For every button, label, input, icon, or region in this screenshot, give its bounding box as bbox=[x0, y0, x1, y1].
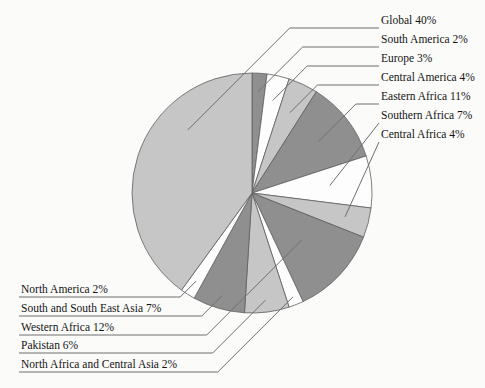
callout-label-europe: Europe 3% bbox=[381, 52, 432, 65]
callout-label-eastern-africa: Eastern Africa 11% bbox=[381, 90, 471, 103]
callout-label-pakistan: Pakistan 6% bbox=[21, 339, 78, 352]
callout-label-central-africa: Central Africa 4% bbox=[381, 128, 465, 141]
callout-label-north-america: North America 2% bbox=[21, 283, 108, 296]
pie-slices bbox=[132, 73, 372, 313]
callout-label-south-america: South America 2% bbox=[381, 33, 468, 46]
callout-label-western-africa: Western Africa 12% bbox=[21, 321, 114, 334]
callout-label-southern-africa: Southern Africa 7% bbox=[381, 109, 472, 122]
callout-label-south-and-south-east-asia: South and South East Asia 7% bbox=[21, 302, 161, 315]
callout-label-north-africa-and-central-asia: North Africa and Central Asia 2% bbox=[21, 358, 177, 371]
callout-label-central-america: Central America 4% bbox=[381, 71, 475, 84]
callout-label-global: Global 40% bbox=[381, 14, 436, 27]
pie-chart-figure: Global 40%South America 2%Europe 3%Centr… bbox=[0, 0, 485, 388]
